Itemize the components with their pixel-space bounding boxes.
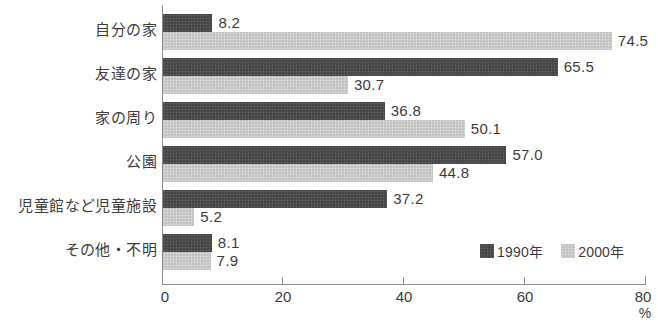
bar-1990-4 (163, 190, 387, 208)
legend-entry-2000: 2000年 (561, 241, 624, 261)
x-axis-unit-label: % (639, 305, 651, 321)
bar-1990-2 (163, 102, 385, 120)
bar-1990-5 (163, 234, 212, 252)
bar-value-1990-4: 37.2 (393, 190, 423, 208)
x-axis-tick (282, 277, 283, 284)
x-axis-tick (403, 277, 404, 284)
category-label: 自分の家 (0, 22, 157, 37)
bar-value-2000-0: 74.5 (618, 32, 648, 50)
legend-label-2000: 2000年 (578, 241, 624, 261)
bar-value-2000-3: 44.8 (439, 164, 469, 182)
legend-entry-1990: 1990年 (480, 241, 543, 261)
bar-value-2000-1: 30.7 (354, 76, 384, 94)
x-axis-tick-label: 60 (517, 288, 534, 305)
bar-value-2000-5: 7.9 (217, 252, 239, 270)
bar-2000-4 (163, 208, 194, 226)
bar-value-1990-3: 57.0 (512, 146, 542, 164)
category-label: その他・不明 (0, 242, 157, 257)
x-axis-end-cap (645, 276, 646, 285)
category-axis-labels: 自分の家 友達の家 家の周り 公園 児童館など児童施設 その他・不明 (0, 0, 157, 282)
category-label: 友達の家 (0, 66, 157, 81)
category-label: 家の周り (0, 110, 157, 125)
x-axis-tick-label: 0 (161, 288, 169, 305)
bar-2000-3 (163, 164, 433, 182)
bar-2000-2 (163, 120, 465, 138)
x-axis-tick-label: 80 (635, 288, 652, 305)
x-axis-tick-label: 20 (275, 288, 292, 305)
legend-label-1990: 1990年 (497, 241, 543, 261)
legend-swatch-icon-2000 (561, 244, 575, 258)
bar-value-1990-5: 8.1 (218, 234, 240, 252)
bar-2000-1 (163, 76, 348, 94)
bar-1990-1 (163, 58, 558, 76)
y-axis-line (162, 5, 163, 285)
bar-1990-3 (163, 146, 506, 164)
x-axis-line (162, 284, 646, 285)
bar-value-1990-2: 36.8 (391, 102, 421, 120)
legend: 1990年 2000年 (478, 240, 626, 262)
bar-value-2000-2: 50.1 (471, 120, 501, 138)
x-axis-tick (162, 277, 163, 284)
bar-2000-0 (163, 32, 612, 50)
x-axis-tick (524, 277, 525, 284)
bar-2000-5 (163, 252, 211, 270)
bar-value-1990-1: 65.5 (564, 58, 594, 76)
category-label: 児童館など児童施設 (0, 198, 157, 213)
category-label: 公園 (0, 154, 157, 169)
bar-1990-0 (163, 14, 212, 32)
x-axis-tick-label: 40 (396, 288, 413, 305)
bar-chart: 自分の家 友達の家 家の周り 公園 児童館など児童施設 その他・不明 8.2 7… (0, 0, 658, 322)
bar-value-1990-0: 8.2 (218, 14, 240, 32)
legend-swatch-icon-1990 (480, 244, 494, 258)
bar-value-2000-4: 5.2 (200, 208, 222, 226)
